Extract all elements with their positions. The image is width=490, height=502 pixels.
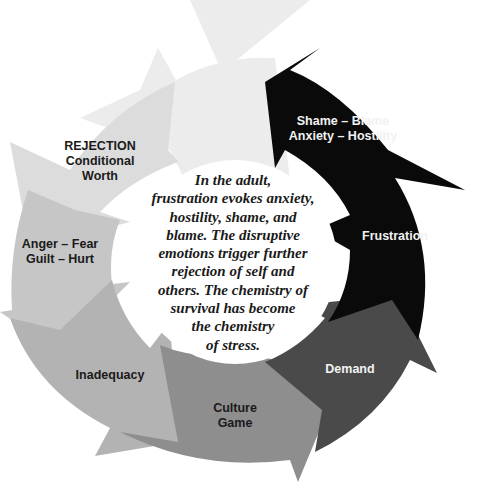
center-line: survival has become: [128, 299, 338, 317]
center-line: the chemistry: [128, 317, 338, 335]
center-line: blame. The disruptive: [128, 226, 338, 244]
center-line: of stress.: [128, 336, 338, 354]
inadequacy-line-1: Inadequacy: [76, 368, 145, 382]
shame-line-1: Shame – Blame: [297, 114, 389, 128]
label-demand: Demand: [310, 362, 390, 377]
center-line: others. The chemistry of: [128, 281, 338, 299]
rejection-line-3: Worth: [82, 169, 118, 183]
anger-line-2: Guilt – Hurt: [26, 252, 94, 266]
center-line: frustration evokes anxiety,: [128, 189, 338, 207]
culture-line-1: Culture: [213, 401, 257, 415]
center-line: rejection of self and: [128, 262, 338, 280]
label-frustration: Frustration: [355, 229, 435, 244]
center-line: In the adult,: [128, 171, 338, 189]
culture-line-2: Game: [218, 416, 253, 430]
stress-cycle-diagram: Shame – Blame Anxiety – Hostility Frustr…: [0, 0, 490, 502]
anger-line-1: Anger – Fear: [22, 237, 98, 251]
center-line: emotions trigger further: [128, 244, 338, 262]
demand-line-1: Demand: [325, 362, 374, 376]
label-anger-fear: Anger – Fear Guilt – Hurt: [10, 237, 110, 267]
label-culture-game: Culture Game: [195, 401, 275, 431]
center-line: hostility, shame, and: [128, 208, 338, 226]
rejection-line-2: Conditional: [66, 154, 135, 168]
shame-line-2: Anxiety – Hostility: [289, 129, 397, 143]
rejection-line-1: REJECTION: [64, 139, 136, 153]
frustration-line-1: Frustration: [362, 229, 428, 243]
label-inadequacy: Inadequacy: [68, 368, 152, 383]
label-shame-blame: Shame – Blame Anxiety – Hostility: [283, 114, 403, 144]
center-description: In the adult, frustration evokes anxiety…: [128, 171, 338, 354]
